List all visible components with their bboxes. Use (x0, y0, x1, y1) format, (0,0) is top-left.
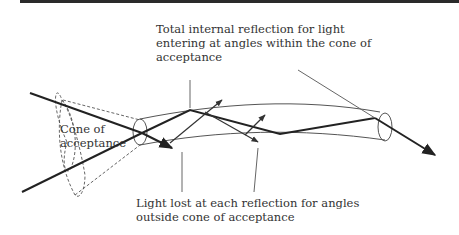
label-total-internal-reflection: Total internal reflection for light ente… (156, 22, 371, 64)
leader-lines (182, 70, 375, 192)
label-light-lost: Light lost at each reflection for angles… (136, 196, 359, 224)
label-cone-of-acceptance: Cone of acceptance (60, 122, 126, 150)
optical-fiber (133, 104, 392, 145)
lost-light-rays (170, 100, 265, 143)
